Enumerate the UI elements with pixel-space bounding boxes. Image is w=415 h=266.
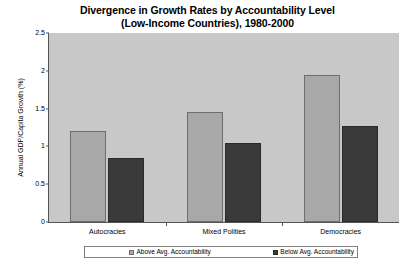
chart-title: Divergence in Growth Rates by Accountabi…	[0, 4, 415, 29]
x-category-label: Democracies	[320, 227, 361, 236]
y-tick-mark	[46, 108, 49, 109]
y-tick-mark	[46, 33, 49, 34]
chart-figure: Divergence in Growth Rates by Accountabi…	[0, 0, 415, 266]
y-tick-label: 2.5	[35, 29, 45, 37]
y-tick-label: 1	[41, 142, 45, 150]
legend-item-below: Below Avg. Accountability	[273, 248, 354, 256]
y-tick-label: 0	[41, 218, 45, 226]
bar-above-0	[70, 131, 106, 222]
legend-swatch-icon-above	[129, 250, 134, 255]
y-tick-label: 2	[41, 67, 45, 75]
chart-title-line-1: Divergence in Growth Rates by Accountabi…	[0, 4, 415, 17]
legend-label-below: Below Avg. Accountability	[280, 248, 354, 256]
y-tick-mark	[46, 70, 49, 71]
bar-below-0	[108, 158, 144, 222]
legend-item-above: Above Avg. Accountability	[129, 248, 211, 256]
y-tick-mark	[46, 222, 49, 223]
y-tick-mark	[46, 146, 49, 147]
legend-swatch-icon-below	[273, 250, 278, 255]
y-axis-title: Annual GDP/Capita Growth (%)	[15, 33, 27, 222]
x-axis-separator	[166, 222, 167, 226]
y-tick-mark	[46, 184, 49, 185]
y-tick-label: 1.5	[35, 105, 45, 113]
x-category-label: Autocracies	[89, 227, 126, 236]
chart-legend: Above Avg. Accountability Below Avg. Acc…	[84, 246, 358, 258]
y-tick-label: 0.5	[35, 180, 45, 188]
x-category-label: Mixed Polities	[202, 227, 245, 236]
plot-area: Annual GDP/Capita Growth (%) 00.511.522.…	[48, 33, 399, 223]
chart-title-line-2: (Low-Income Countries), 1980-2000	[0, 17, 415, 30]
bar-above-1	[187, 112, 223, 222]
bar-below-1	[225, 143, 261, 222]
x-axis-separator	[282, 222, 283, 226]
legend-label-above: Above Avg. Accountability	[137, 248, 211, 256]
bar-below-2	[342, 126, 378, 222]
bar-above-2	[304, 75, 340, 222]
